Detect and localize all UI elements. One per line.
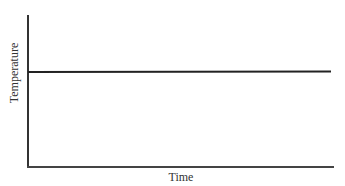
- temperature-time-chart: Temperature Time: [0, 0, 345, 186]
- x-axis-label: Time: [169, 170, 194, 185]
- y-axis-label: Temperature: [7, 43, 22, 103]
- x-axis: [27, 166, 334, 168]
- constant-temperature-line: [28, 71, 331, 73]
- y-axis: [27, 15, 29, 168]
